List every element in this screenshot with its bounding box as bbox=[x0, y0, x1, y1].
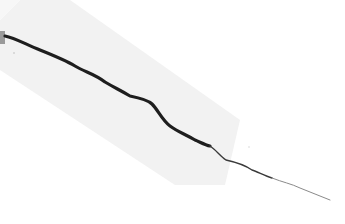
crack-tail bbox=[272, 178, 330, 200]
crack-illustration bbox=[0, 0, 345, 224]
crack-image bbox=[0, 0, 345, 224]
edge-mark bbox=[0, 31, 5, 44]
background-band bbox=[0, 0, 240, 185]
